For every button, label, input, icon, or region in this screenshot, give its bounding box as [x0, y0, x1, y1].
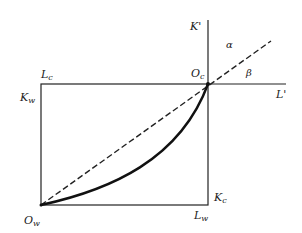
- edgeworth-box-diagram: K' α β Oc L' Lc Kw Ow Kc Lw: [0, 0, 302, 233]
- l-prime-label: L': [275, 88, 286, 101]
- beta-label: β: [245, 67, 252, 78]
- o-c-point: [206, 82, 210, 86]
- l-w-label: Lw: [193, 209, 208, 223]
- alpha-label: α: [226, 39, 233, 50]
- k-c-label: Kc: [213, 191, 227, 205]
- o-w-point: [40, 204, 43, 207]
- o-c-label: Oc: [191, 67, 205, 81]
- o-w-label: Ow: [24, 214, 40, 228]
- k-w-label: Kw: [19, 91, 35, 105]
- dashed-diagonal-line: [41, 41, 271, 205]
- l-c-label: Lc: [40, 68, 53, 82]
- k-prime-label: K': [189, 20, 201, 33]
